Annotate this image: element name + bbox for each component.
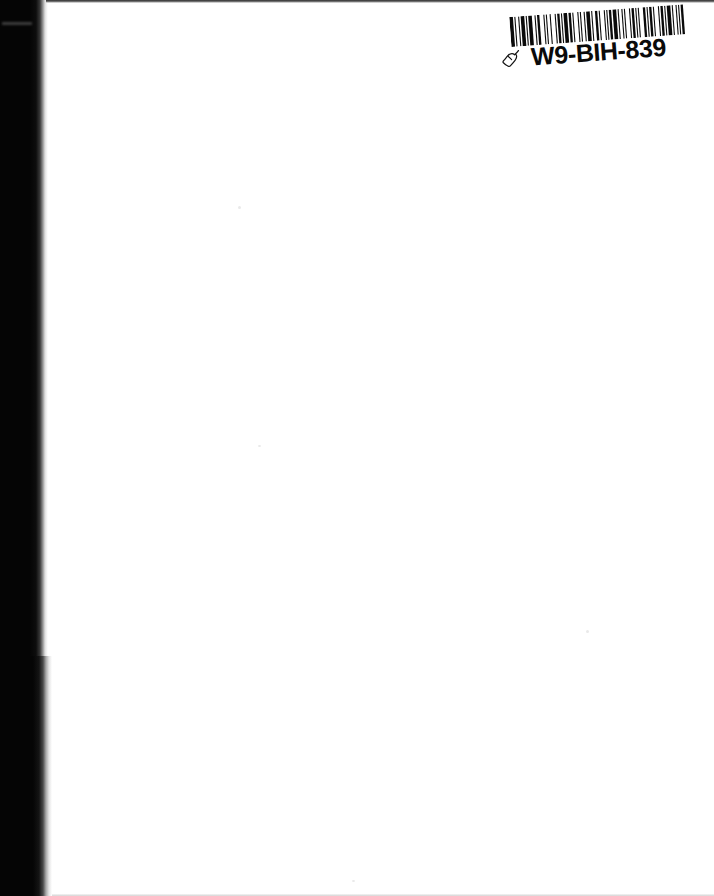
scan-streak [2, 22, 32, 25]
scan-speckle [258, 445, 261, 447]
scan-speckle [238, 206, 241, 209]
scanned-page: W9-BIH-839 [0, 0, 714, 896]
scan-speckle [352, 880, 355, 882]
pointing-hand-icon [500, 48, 523, 70]
scan-top-edge [46, 0, 714, 3]
scan-speckle [586, 630, 589, 633]
scan-spine-shadow-foot [0, 656, 52, 896]
barcode-label: W9-BIH-839 [497, 0, 697, 82]
